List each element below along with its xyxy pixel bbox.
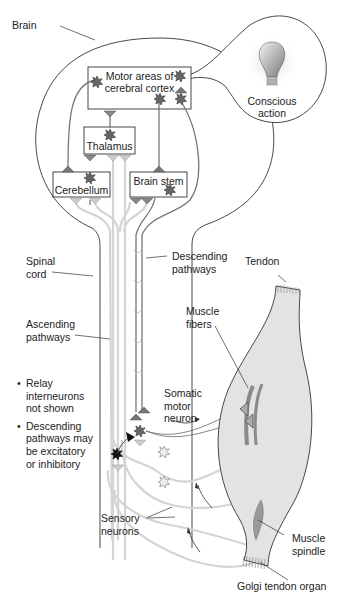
label-descending-pathways: Descending pathways	[172, 250, 227, 275]
label-brain-stem: Brain stem	[130, 175, 187, 187]
label-sensory-neurons: Sensory neurons	[101, 512, 140, 537]
label-brain: Brain	[12, 19, 37, 32]
label-tendon: Tendon	[245, 255, 279, 268]
label-spinal-cord: Spinal cord	[26, 255, 55, 280]
label-conscious-action: Conscious action	[237, 95, 307, 119]
pathway-ticks	[134, 250, 142, 373]
label-muscle-fibers: Muscle fibers	[186, 305, 219, 330]
label-ascending-pathways: Ascending pathways	[26, 318, 75, 343]
brain-leader-line	[60, 26, 95, 40]
label-somatic-motor-neuron: Somatic motor neuron	[164, 387, 202, 425]
note-item: Relay interneurons not shown	[17, 377, 97, 415]
label-motor-cortex: Motor areas of cerebral cortex	[88, 70, 191, 94]
note-item: Descending pathways may be excitatory or…	[17, 420, 97, 470]
label-golgi-tendon-organ: Golgi tendon organ	[237, 580, 326, 593]
label-thalamus: Thalamus	[84, 140, 135, 152]
label-muscle-spindle: Muscle spindle	[292, 532, 325, 557]
label-cerebellum: Cerebellum	[53, 184, 110, 196]
notes-list: Relay interneurons not shown Descending …	[17, 377, 97, 475]
